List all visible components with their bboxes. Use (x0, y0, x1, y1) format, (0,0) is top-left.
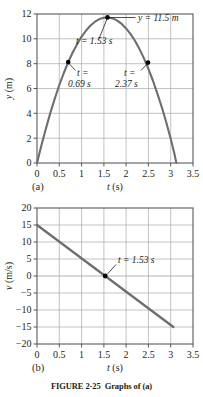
y-tick-label: 10 (22, 33, 32, 44)
x-tick-label: 3.5 (187, 349, 200, 360)
x-tick-label: 0.5 (53, 349, 66, 360)
y-tick-label: 6 (27, 83, 32, 94)
y-tick-labels: 20 15 10 5 0 −5 −10 −15 −20 (16, 202, 32, 349)
y-tick-label: 2 (27, 133, 32, 144)
figure-caption-number: FIGURE 2-25 (51, 381, 101, 391)
panel-b-velocity-graph: 20 15 10 5 0 −5 −10 −15 −20 0 0.5 1 1.5 … (0, 196, 203, 376)
y-axis-title-group: v(m/s) (3, 262, 15, 290)
marker-zero-crossing (103, 274, 108, 279)
y-tick-label: −10 (16, 304, 32, 315)
annotation-right-time-line1: t = (124, 68, 135, 78)
panel-a-tag: (a) (32, 181, 44, 193)
y-tick-label: 10 (22, 236, 32, 247)
x-tick-label: 3 (168, 349, 173, 360)
figure-caption-text: Graphs of (a) (105, 381, 152, 391)
marker-t-2-37 (146, 60, 151, 65)
y-tick-label: 8 (27, 58, 32, 69)
x-tick-label: 3.5 (187, 168, 200, 179)
annotation-apex-time: t = 1.53 s (76, 36, 113, 46)
annotation-right-time-line2: 2.37 s (115, 79, 138, 89)
x-tick-label: 1 (79, 168, 84, 179)
y-axis-title: y(m) (3, 78, 15, 100)
y-tick-label: 15 (22, 219, 32, 230)
physics-figure: 0 2 4 6 8 10 12 0 0.5 1 1.5 2 2.5 3 3.5 … (0, 0, 203, 397)
panel-a-position-graph: 0 2 4 6 8 10 12 0 0.5 1 1.5 2 2.5 3 3.5 … (0, 0, 203, 196)
position-vs-time-chart: 0 2 4 6 8 10 12 0 0.5 1 1.5 2 2.5 3 3.5 … (0, 0, 203, 196)
y-tick-label: 5 (27, 253, 32, 264)
marker-apex (105, 15, 110, 20)
annotation-zero-crossing: t = 1.53 s (118, 255, 155, 265)
y-tick-label: 12 (22, 8, 32, 19)
x-tick-label: 2 (124, 349, 129, 360)
velocity-vs-time-chart: 20 15 10 5 0 −5 −10 −15 −20 0 0.5 1 1.5 … (0, 196, 203, 381)
y-tick-label: −5 (21, 287, 32, 298)
annotation-left-time-line2: 0.69 s (68, 79, 91, 89)
x-tick-label: 0 (35, 168, 40, 179)
marker-t-0-69 (66, 60, 71, 65)
y-axis-title-group: y(m) (3, 78, 15, 100)
x-tick-label: 3 (168, 168, 173, 179)
left-point-leader-line (69, 63, 76, 71)
y-tick-label: 4 (27, 108, 32, 119)
y-tick-label: −15 (16, 321, 32, 332)
x-tick-label: 0.5 (53, 168, 66, 179)
x-tick-labels: 0 0.5 1 1.5 2 2.5 3 3.5 (35, 168, 200, 179)
figure-caption: FIGURE 2-25 Graphs of (a) (0, 381, 203, 391)
annotation-peak-value: y = 11.5 m (137, 13, 179, 23)
y-tick-label: −20 (16, 338, 32, 349)
x-tick-label: 1 (79, 349, 84, 360)
y-tick-label: 0 (27, 270, 32, 281)
x-tick-label: 2.5 (142, 349, 155, 360)
panel-b-tag: (b) (32, 362, 45, 374)
y-tick-label: 20 (22, 202, 32, 213)
y-axis-title: v(m/s) (3, 262, 15, 290)
x-tick-label: 2 (124, 168, 129, 179)
x-tick-label: 2.5 (142, 168, 155, 179)
y-tick-label: 0 (27, 157, 32, 168)
x-tick-label: 0 (35, 349, 40, 360)
x-tick-label: 1.5 (98, 168, 111, 179)
x-tick-labels: 0 0.5 1 1.5 2 2.5 3 3.5 (35, 349, 200, 360)
x-axis-title: t(s) (107, 181, 123, 193)
x-tick-label: 1.5 (98, 349, 111, 360)
x-axis-title: t(s) (107, 362, 123, 374)
y-tick-labels: 0 2 4 6 8 10 12 (22, 8, 32, 168)
zero-crossing-leader-line (107, 265, 116, 275)
annotation-left-time-line1: t = (77, 68, 88, 78)
